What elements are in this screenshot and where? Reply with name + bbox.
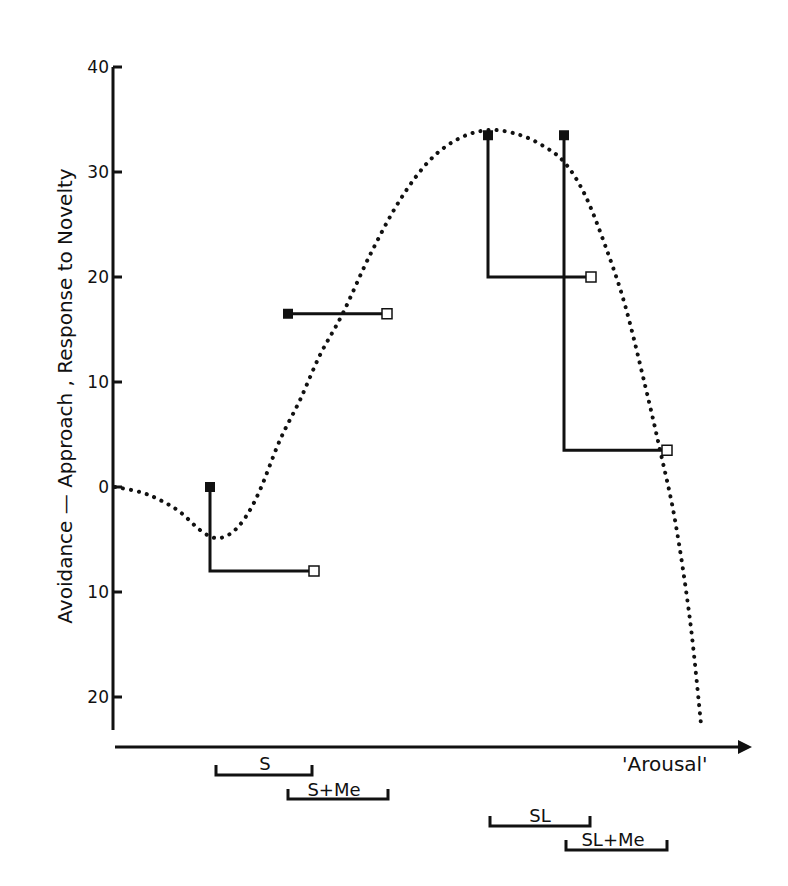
series-s-plus-me	[283, 309, 392, 319]
open-square-marker	[586, 272, 596, 282]
open-square-marker	[309, 566, 319, 576]
range-label: S+Me	[307, 779, 360, 800]
series-connector	[564, 135, 662, 450]
filled-square-marker	[483, 130, 493, 140]
series-s	[205, 482, 319, 576]
y-axis: 4030201001020	[87, 57, 122, 730]
open-square-marker	[382, 309, 392, 319]
x-axis-arrow-icon	[738, 740, 752, 754]
y-tick-label: 20	[87, 687, 109, 707]
chart: 4030201001020 Avoidance — Approach , Res…	[0, 0, 788, 886]
y-tick-label: 0	[98, 477, 109, 497]
range-label: S	[259, 753, 270, 774]
range-s-plus-me: S+Me	[288, 779, 388, 800]
open-square-marker	[662, 445, 672, 455]
y-tick-label: 40	[87, 57, 109, 77]
range-label: SL	[529, 805, 550, 826]
y-tick-label: 10	[87, 372, 109, 392]
series-sl	[483, 130, 596, 282]
range-s: S	[216, 753, 312, 775]
condition-ranges: SS+MeSLSL+Me	[216, 753, 667, 850]
data-series	[205, 130, 672, 576]
dotted-arousal-curve	[115, 130, 701, 724]
filled-square-marker	[283, 309, 293, 319]
filled-square-marker	[559, 130, 569, 140]
dotted-curve-path	[115, 130, 701, 724]
range-sl: SL	[490, 805, 590, 826]
x-axis-title: 'Arousal'	[622, 752, 708, 776]
series-connector	[210, 487, 309, 571]
y-tick-label: 10	[87, 582, 109, 602]
y-tick-label: 20	[87, 267, 109, 287]
series-connector	[488, 135, 586, 277]
y-tick-label: 30	[87, 162, 109, 182]
y-axis-title: Avoidance — Approach , Response to Novel…	[53, 168, 77, 623]
range-sl-plus-me: SL+Me	[566, 829, 667, 850]
filled-square-marker	[205, 482, 215, 492]
range-label: SL+Me	[581, 829, 644, 850]
